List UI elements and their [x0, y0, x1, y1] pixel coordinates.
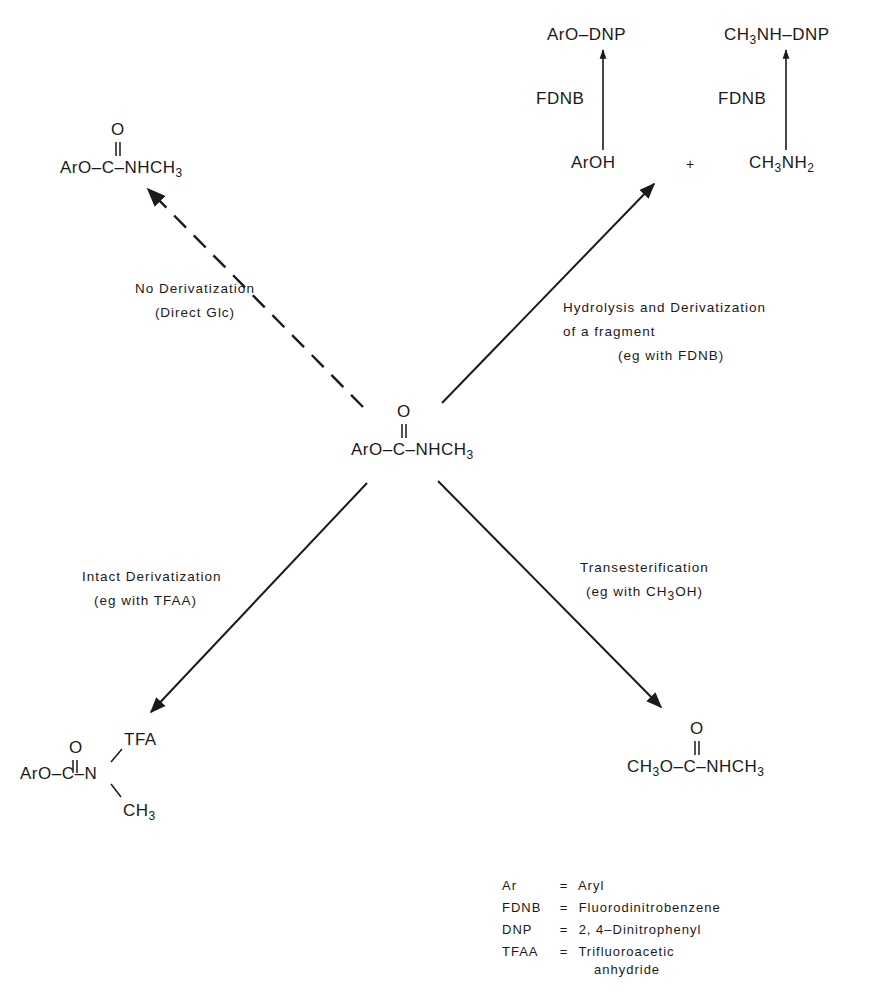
- no-deriv-product: ArO–C–NHCH3: [60, 158, 183, 178]
- formula-part: CH: [724, 25, 750, 44]
- reaction-arrows: [0, 0, 876, 1000]
- legend-eq: =: [554, 922, 574, 937]
- subscript: 3: [750, 33, 757, 47]
- product-methylamine-dnp: CH3NH–DNP: [724, 25, 830, 45]
- reagent-fdnb-left: FDNB: [536, 89, 584, 109]
- center-compound: ArO–C–NHCH3: [351, 440, 474, 460]
- legend-meaning: anhydride: [594, 962, 660, 977]
- legend-abbr: Ar: [502, 878, 554, 893]
- intact-methyl: CH3: [123, 801, 156, 821]
- label-line: (Direct Glc): [125, 301, 265, 325]
- trans-carbonyl-o: O: [690, 719, 704, 739]
- nitrogen-bonds: [111, 749, 122, 797]
- legend-abbr: DNP: [502, 922, 554, 937]
- reagent-fdnb-right: FDNB: [718, 89, 766, 109]
- subscript: 3: [467, 448, 474, 462]
- label-line: Intact Derivatization: [82, 565, 222, 589]
- legend-eq: =: [554, 878, 574, 893]
- subscript: 3: [149, 809, 156, 823]
- methylamine: CH3NH2: [749, 153, 815, 173]
- label-part: OH): [675, 584, 703, 599]
- center-formula: ArO–C–NHCH: [351, 440, 467, 459]
- subscript: 3: [757, 765, 764, 779]
- label-line: No Derivatization: [125, 277, 265, 301]
- legend-row-ar: Ar= Aryl: [502, 878, 604, 893]
- label-line: (eg with FDNB): [563, 344, 766, 368]
- label-hydrolysis: Hydrolysis and Derivatization of a fragm…: [563, 296, 766, 368]
- phenol-aroh: ArOH: [571, 153, 616, 173]
- product-aro-dnp: ArO–DNP: [547, 25, 626, 45]
- formula-part: CH: [123, 801, 149, 820]
- label-transesterification: Transesterification (eg with CH3OH): [580, 556, 709, 604]
- center-carbonyl-o: O: [397, 402, 411, 422]
- label-no-derivatization: No Derivatization (Direct Glc): [125, 277, 265, 325]
- subscript: 3: [176, 166, 183, 180]
- legend-row-tfaa: TFAA= Trifluoroacetic: [502, 944, 675, 959]
- intact-carbonyl-o: O: [69, 738, 83, 758]
- intact-tfa-group: TFA: [124, 730, 157, 750]
- legend-meaning: Trifluoroacetic: [578, 944, 674, 959]
- formula-part: NH–DNP: [757, 25, 830, 44]
- label-part: (eg with CH: [586, 584, 668, 599]
- label-line: (eg with TFAA): [82, 589, 222, 613]
- arrow-hydrolysis: [442, 184, 654, 403]
- formula-part: NH: [782, 153, 808, 172]
- legend-eq: =: [554, 900, 574, 915]
- no-deriv-carbonyl-o: O: [111, 120, 125, 140]
- label-intact-derivatization: Intact Derivatization (eg with TFAA): [82, 565, 222, 613]
- no-deriv-formula: ArO–C–NHCH: [60, 158, 176, 177]
- subscript: 2: [807, 161, 814, 175]
- label-line: of a fragment: [563, 320, 766, 344]
- plus-sign: +: [686, 156, 694, 172]
- label-line: Hydrolysis and Derivatization: [563, 296, 766, 320]
- legend-abbr: TFAA: [502, 944, 554, 959]
- label-line: (eg with CH3OH): [580, 580, 709, 604]
- subscript: 3: [775, 161, 782, 175]
- legend-row-fdnb: FDNB= Fluorodinitrobenzene: [502, 900, 721, 915]
- legend-meaning: 2, 4–Dinitrophenyl: [579, 922, 702, 937]
- legend-row-tfaa-cont: anhydride: [594, 962, 660, 977]
- legend-meaning: Aryl: [578, 878, 604, 893]
- intact-product: ArO–C–N: [20, 764, 97, 784]
- formula-part: O–C–NHCH: [660, 757, 758, 776]
- legend-eq: =: [554, 944, 574, 959]
- subscript: 3: [653, 765, 660, 779]
- legend-abbr: FDNB: [502, 900, 554, 915]
- legend-row-dnp: DNP= 2, 4–Dinitrophenyl: [502, 922, 701, 937]
- legend-meaning: Fluorodinitrobenzene: [579, 900, 721, 915]
- trans-product: CH3O–C–NHCH3: [627, 757, 764, 777]
- formula-part: CH: [749, 153, 775, 172]
- formula-part: CH: [627, 757, 653, 776]
- label-line: Transesterification: [580, 556, 709, 580]
